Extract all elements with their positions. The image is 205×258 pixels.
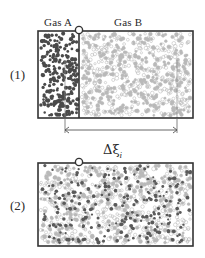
gas-particle: [83, 35, 85, 37]
gas-particle: [84, 179, 87, 182]
gas-particle: [41, 187, 45, 191]
gas-particle: [159, 216, 161, 218]
gas-particle: [178, 90, 180, 92]
gas-particle: [144, 57, 147, 60]
gas-particle: [39, 191, 42, 194]
gas-particle: [67, 220, 70, 223]
gas-particle: [112, 173, 115, 176]
gas-particle: [69, 75, 72, 78]
gas-particle: [177, 178, 181, 182]
gas-particle: [108, 224, 110, 226]
gas-particle: [167, 218, 169, 220]
gas-particle: [54, 192, 56, 194]
gas-particle: [150, 221, 154, 225]
gas-particle: [141, 205, 144, 208]
gas-particle: [143, 167, 146, 170]
gas-particle: [152, 104, 154, 106]
gas-particle: [42, 98, 45, 101]
gas-particle: [79, 233, 83, 237]
gas-particle: [121, 56, 124, 59]
gas-particle: [176, 212, 179, 215]
gas-particle: [132, 33, 136, 37]
gas-particle: [115, 239, 119, 243]
gas-particle: [106, 42, 109, 45]
gas-particle: [177, 69, 180, 72]
gas-particle: [104, 185, 108, 189]
gas-particle: [184, 54, 187, 57]
gas-particle: [58, 105, 62, 109]
gas-particle: [181, 181, 184, 184]
gas-particle: [178, 233, 181, 236]
gas-particle: [188, 96, 192, 100]
panel-1-group: [38, 26, 193, 118]
gas-particle: [56, 87, 59, 90]
gas-particle: [66, 208, 68, 210]
gas-particle: [80, 181, 84, 185]
stopcock-valve-open-icon[interactable]: [75, 158, 82, 165]
gas-particle: [167, 222, 170, 225]
gas-particle: [65, 167, 68, 170]
stopcock-valve-icon[interactable]: [75, 26, 82, 33]
gas-particle: [109, 61, 112, 64]
gas-particle: [156, 225, 159, 228]
gas-particle: [90, 102, 92, 104]
gas-particle: [61, 32, 65, 36]
gas-particle: [157, 212, 160, 215]
gas-particle: [173, 112, 176, 115]
gas-particle: [163, 61, 166, 64]
gas-particle: [68, 86, 72, 90]
gas-particle: [107, 185, 110, 188]
gas-particle: [40, 59, 43, 62]
gas-particle: [175, 184, 179, 188]
gas-particle: [187, 208, 191, 212]
gas-particle: [150, 229, 153, 232]
gas-particle: [136, 82, 140, 86]
gas-particle: [60, 171, 63, 174]
gas-particle: [96, 191, 99, 194]
gas-particle: [116, 95, 119, 98]
gas-particle: [63, 213, 65, 215]
gas-b-particles: [80, 32, 192, 118]
gas-particle: [167, 50, 170, 53]
gas-particle: [97, 60, 100, 63]
gas-particle: [87, 187, 91, 191]
gas-particle: [178, 199, 182, 203]
gas-particle: [51, 203, 54, 206]
gas-particle: [135, 109, 138, 112]
gas-particle: [73, 69, 77, 73]
gas-particle: [71, 99, 74, 102]
gas-particle: [91, 183, 93, 185]
gas-particle: [170, 191, 173, 194]
gas-particle: [102, 239, 105, 242]
gas-particle: [61, 54, 64, 57]
gas-particle: [72, 87, 76, 91]
gas-particle: [66, 183, 70, 187]
gas-particle: [127, 239, 129, 241]
gas-particle: [92, 110, 95, 113]
gas-particle: [188, 105, 190, 107]
gas-particle: [148, 192, 151, 195]
gas-particle: [158, 106, 160, 108]
gas-particle: [161, 98, 164, 101]
gas-particle: [122, 70, 126, 74]
gas-particle: [43, 93, 46, 96]
gas-particle: [136, 214, 139, 217]
gas-particle: [181, 234, 184, 237]
gas-particle: [153, 187, 155, 189]
gas-particle: [56, 40, 58, 42]
gas-particle: [181, 92, 184, 95]
gas-particle: [142, 102, 144, 104]
gas-particle: [172, 229, 176, 233]
gas-particle: [184, 59, 187, 62]
gas-particle: [82, 219, 85, 222]
gas-particle: [147, 241, 149, 243]
gas-particle: [121, 213, 124, 216]
gas-particle: [62, 201, 66, 205]
gas-particle: [145, 68, 147, 70]
gas-particle: [109, 36, 112, 39]
gas-particle: [119, 230, 123, 234]
gas-particle: [73, 194, 76, 197]
gas-particle: [138, 234, 141, 237]
gas-particle: [55, 55, 58, 58]
gas-particle: [59, 231, 61, 233]
